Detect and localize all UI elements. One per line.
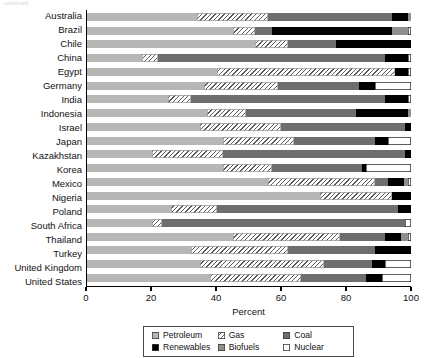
bar-segment-nuclear <box>382 274 411 282</box>
bar-segment-gas <box>197 13 268 21</box>
bar-segment-coal <box>281 123 404 131</box>
bar-segment-coal <box>278 82 359 90</box>
bar-row <box>87 178 411 186</box>
legend-label: Petroleum <box>163 330 202 340</box>
bar-segment-renewables <box>372 260 385 268</box>
bar-row <box>87 137 411 145</box>
bar-segment-gas <box>233 233 340 241</box>
x-tick <box>345 287 346 291</box>
category-label: Indonesia <box>0 109 86 119</box>
bar-segment-coal <box>158 54 385 62</box>
x-tick <box>150 287 151 291</box>
category-label: Nigeria <box>0 193 86 203</box>
bar-row <box>87 123 411 131</box>
legend-label: Gas <box>229 330 245 340</box>
legend-item-gas[interactable]: Gas <box>218 330 282 340</box>
bar-segment-biofuels <box>408 109 411 117</box>
x-tick <box>215 287 216 291</box>
bar-segment-coal <box>294 137 375 145</box>
bar-segment-petroleum <box>87 137 223 145</box>
x-tick-label: 0 <box>83 292 88 303</box>
legend-label: Coal <box>294 330 312 340</box>
category-label: Brazil <box>0 25 86 35</box>
stacked-bar-chart-figure: continued AustraliaBrazilChileChinaEgypt… <box>0 0 426 358</box>
bar-segment-nuclear <box>408 233 411 241</box>
bar-row <box>87 68 411 76</box>
bar-segment-petroleum <box>87 40 255 48</box>
category-label: Thailand <box>0 235 86 245</box>
bar-segment-renewables <box>385 95 408 103</box>
bar-segment-nuclear <box>408 95 411 103</box>
x-tick <box>85 287 86 291</box>
bar-segment-petroleum <box>87 192 320 200</box>
bar-segment-nuclear <box>408 178 411 186</box>
bar-row <box>87 40 411 48</box>
bar-segment-coal <box>340 233 385 241</box>
legend-swatch-petroleum <box>152 332 159 339</box>
bar-segment-petroleum <box>87 260 200 268</box>
category-label: Australia <box>0 11 86 21</box>
legend-item-biofuels[interactable]: Biofuels <box>218 342 282 352</box>
category-label: Egypt <box>0 67 86 77</box>
bar-segment-renewables <box>392 192 411 200</box>
bar-segment-nuclear <box>375 82 411 90</box>
top-caption: continued <box>4 0 28 6</box>
legend-label: Renewables <box>163 342 210 352</box>
bar-segment-nuclear <box>408 27 411 35</box>
bar-segment-coal <box>324 260 373 268</box>
bar-segment-gas <box>207 109 246 117</box>
bar-row <box>87 205 411 213</box>
bar-segment-gas <box>255 40 287 48</box>
bar-segment-renewables <box>385 54 408 62</box>
category-label: India <box>0 95 86 105</box>
legend-item-renewables[interactable]: Renewables <box>152 342 216 352</box>
bar-segment-coal <box>191 95 385 103</box>
bar-segment-petroleum <box>87 68 217 76</box>
legend-item-coal[interactable]: Coal <box>283 330 347 340</box>
bar-row <box>87 260 411 268</box>
bar-segment-petroleum <box>87 54 142 62</box>
category-label: Korea <box>0 165 86 175</box>
legend-swatch-nuclear <box>283 344 290 351</box>
bar-segment-gas <box>142 54 158 62</box>
legend-swatch-renewables <box>152 344 159 351</box>
x-tick <box>410 287 411 291</box>
legend-label: Biofuels <box>229 342 260 352</box>
bar-segment-petroleum <box>87 205 171 213</box>
bar-segment-coal <box>375 178 388 186</box>
chart-legend: PetroleumGasCoalRenewablesBiofuelsNuclea… <box>143 326 354 357</box>
bar-segment-gas <box>223 137 294 145</box>
bar-segment-gas <box>191 246 288 254</box>
bar-segment-biofuels <box>408 13 411 21</box>
bar-segment-renewables <box>385 233 401 241</box>
bar-segment-nuclear <box>388 137 411 145</box>
category-label: United Kingdom <box>0 263 86 273</box>
bar-row <box>87 13 411 21</box>
bar-segment-petroleum <box>87 164 223 172</box>
bar-segment-gas <box>200 123 281 131</box>
legend-item-petroleum[interactable]: Petroleum <box>152 330 216 340</box>
bar-row <box>87 150 411 158</box>
x-tick-label: 80 <box>341 292 352 303</box>
bar-segment-gas <box>233 27 256 35</box>
bar-segment-petroleum <box>87 27 233 35</box>
category-label: Turkey <box>0 249 86 259</box>
bar-row <box>87 274 411 282</box>
legend-item-nuclear[interactable]: Nuclear <box>283 342 347 352</box>
bar-segment-petroleum <box>87 233 233 241</box>
category-label: Germany <box>0 81 86 91</box>
category-label: Mexico <box>0 179 86 189</box>
legend-label: Nuclear <box>294 342 324 352</box>
bar-segment-nuclear <box>408 68 411 76</box>
bar-segment-renewables <box>375 246 411 254</box>
bar-segment-gas <box>152 150 223 158</box>
bar-segment-gas <box>217 68 395 76</box>
bar-row <box>87 192 411 200</box>
bar-segment-gas <box>223 164 272 172</box>
bar-segment-coal <box>217 205 398 213</box>
bar-segment-gas <box>204 82 279 90</box>
bar-segment-nuclear <box>408 54 411 62</box>
category-label: Chile <box>0 39 86 49</box>
bar-segment-gas <box>171 205 216 213</box>
category-axis-labels: AustraliaBrazilChileChinaEgyptGermanyInd… <box>0 10 86 287</box>
